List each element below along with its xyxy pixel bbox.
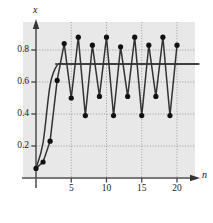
axes-group bbox=[22, 19, 200, 188]
data-point-marker bbox=[55, 78, 60, 83]
x-axis-label: n bbox=[202, 169, 207, 180]
data-point-marker bbox=[104, 35, 109, 40]
data-point-marker bbox=[33, 166, 38, 171]
data-point-marker bbox=[118, 44, 123, 49]
x-tick-label: 20 bbox=[167, 183, 187, 193]
data-point-marker bbox=[48, 139, 53, 144]
data-point-marker bbox=[62, 41, 67, 46]
x-axis-arrowhead bbox=[190, 175, 200, 181]
series-line-period4 bbox=[36, 37, 177, 168]
data-point-marker bbox=[139, 113, 144, 118]
data-point-marker bbox=[167, 113, 172, 118]
y-tick-label: 0.4 bbox=[0, 108, 29, 118]
y-tick-label: 0.2 bbox=[0, 140, 29, 150]
data-point-marker bbox=[132, 35, 137, 40]
data-point-marker bbox=[174, 43, 179, 48]
data-point-marker bbox=[125, 94, 130, 99]
series-lines-group bbox=[36, 37, 198, 168]
data-point-marker bbox=[97, 94, 102, 99]
data-point-marker bbox=[40, 159, 45, 164]
data-point-marker bbox=[111, 113, 116, 118]
data-point-marker bbox=[153, 94, 158, 99]
data-point-marker bbox=[90, 43, 95, 48]
x-tick-label: 10 bbox=[97, 183, 117, 193]
y-axis-arrowhead bbox=[33, 19, 39, 29]
data-point-marker bbox=[83, 113, 88, 118]
data-point-marker bbox=[160, 35, 165, 40]
data-point-marker bbox=[69, 95, 74, 100]
chart-figure: 0.20.40.60.8 5101520 x n bbox=[0, 0, 213, 223]
y-tick-label: 0.6 bbox=[0, 76, 29, 86]
x-tick-label: 5 bbox=[61, 183, 81, 193]
data-point-marker bbox=[76, 35, 81, 40]
y-axis-label: x bbox=[33, 4, 37, 15]
y-tick-label: 0.8 bbox=[0, 44, 29, 54]
x-tick-label: 15 bbox=[132, 183, 152, 193]
data-point-marker bbox=[146, 43, 151, 48]
